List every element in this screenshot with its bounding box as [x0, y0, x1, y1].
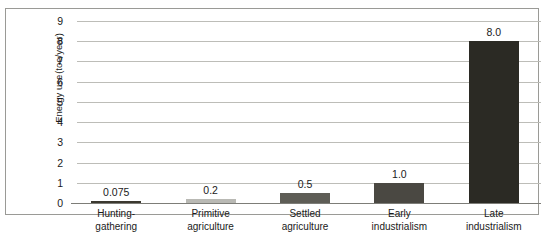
y-axis-tick-label: 7 [43, 56, 63, 67]
y-axis-tick-label: 1 [43, 178, 63, 189]
category-label-line-2: agriculture [282, 221, 329, 233]
category-label-line-2: agriculture [187, 221, 234, 233]
bar[interactable]: 8.0 [469, 41, 519, 203]
chart-frame: Energy use (toe/year) 0123456789 0.0750.… [5, 8, 539, 215]
y-axis-tick-label: 3 [43, 137, 63, 148]
y-axis-tick-label: 4 [43, 117, 63, 128]
category-label-line-1: Late [466, 208, 522, 221]
category-label-line-1: Early [372, 208, 428, 221]
plot-area: 0123456789 0.0750.20.51.08.0 [69, 21, 541, 203]
x-axis-category-label: Settledagriculture [282, 208, 329, 232]
bar[interactable]: 0.075 [91, 201, 141, 203]
y-axis-tick-label: 2 [43, 157, 63, 168]
y-axis-tick-label: 0 [43, 198, 63, 209]
bar-value-label: 0.5 [298, 179, 313, 190]
bar-value-label: 8.0 [486, 27, 501, 38]
bar[interactable]: 1.0 [374, 183, 424, 203]
y-axis-tick-label: 5 [43, 97, 63, 108]
category-label-line-1: Settled [282, 208, 329, 221]
category-label-line-1: Primitive [187, 208, 234, 221]
x-axis-line [71, 203, 541, 204]
x-axis-category-labels: Hunting-gatheringPrimitiveagricultureSet… [69, 208, 541, 232]
category-label-line-1: Hunting- [95, 208, 137, 221]
y-axis-tick-label: 8 [43, 36, 63, 47]
bar-series: 0.0750.20.51.08.0 [69, 21, 541, 203]
category-label-line-2: industrialism [372, 221, 428, 233]
x-axis-category-label: Hunting-gathering [95, 208, 137, 232]
y-axis-tick-label: 9 [43, 16, 63, 27]
bar[interactable]: 0.2 [186, 199, 236, 203]
category-label-line-2: gathering [95, 221, 137, 233]
category-label-line-2: industrialism [466, 221, 522, 233]
y-axis-tick-label: 6 [43, 76, 63, 87]
x-axis-category-label: Earlyindustrialism [372, 208, 428, 232]
bar-value-label: 0.075 [103, 187, 129, 198]
x-axis-category-label: Lateindustrialism [466, 208, 522, 232]
bar[interactable]: 0.5 [280, 193, 330, 203]
x-axis-category-label: Primitiveagriculture [187, 208, 234, 232]
bar-value-label: 1.0 [392, 169, 407, 180]
bar-value-label: 0.2 [203, 185, 218, 196]
